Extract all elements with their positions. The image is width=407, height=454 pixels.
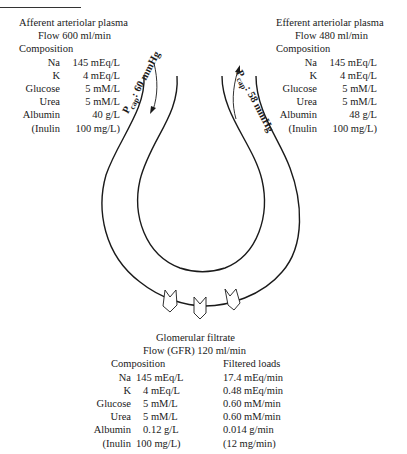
efferent-composition-label: Composition	[276, 42, 384, 55]
capillary-inner-wall	[138, 76, 265, 272]
afferent-row-inulin: (Inulin100 mg/L)	[19, 122, 128, 135]
afferent-flow: Flow 600 ml/min	[19, 29, 128, 42]
afferent-row-albumin: Albumin40 g/L	[19, 108, 128, 121]
efferent-row-urea: Urea5 mM/L	[276, 95, 384, 108]
efferent-row-albumin: Albumin48 g/L	[276, 108, 384, 121]
filtrate-row-albumin: Albumin0.12 g/L0.014 g/min	[88, 423, 328, 436]
filtrate-flow: Flow (GFR) 120 ml/min	[88, 344, 328, 357]
filtrate-header-row: Composition Filtered loads	[88, 357, 328, 370]
filtrate-row-glucose: Glucose5 mM/L0.60 mM/min	[88, 397, 328, 410]
filtered-loads-header: Filtered loads	[223, 357, 280, 370]
afferent-composition-label: Composition	[19, 42, 128, 55]
filtration-arrow-icon	[225, 289, 240, 310]
glomerular-filtrate-block: Glomerular filtrate Flow (GFR) 120 ml/mi…	[88, 331, 328, 450]
efferent-row-k: K4 mEq/L	[276, 69, 384, 82]
filtrate-title: Glomerular filtrate	[88, 331, 328, 344]
inflow-arrowhead-icon	[150, 106, 156, 114]
efferent-row-na: Na145 mEq/L	[276, 56, 384, 69]
afferent-row-na: Na145 mEq/L	[19, 56, 128, 69]
efferent-title: Efferent arteriolar plasma	[276, 16, 384, 29]
efferent-row-inulin: (Inulin100 mg/L)	[276, 122, 384, 135]
efferent-row-glucose: Glucose5 mM/L	[276, 82, 384, 95]
filtration-arrow-icon	[163, 290, 177, 312]
efferent-plasma-block: Efferent arteriolar plasma Flow 480 ml/m…	[276, 16, 384, 135]
afferent-title: Afferent arteriolar plasma	[19, 16, 128, 29]
afferent-row-k: K4 mEq/L	[19, 69, 128, 82]
filtrate-row-urea: Urea5 mM/L0.60 mM/min	[88, 410, 328, 423]
afferent-row-glucose: Glucose5 mM/L	[19, 82, 128, 95]
afferent-row-urea: Urea5 mM/L	[19, 95, 128, 108]
composition-header: Composition	[88, 357, 223, 370]
filtrate-row-k: K4 mEq/L0.48 mEq/min	[88, 384, 328, 397]
efferent-flow: Flow 480 ml/min	[276, 29, 384, 42]
filtrate-row-na: Na145 mEq/L17.4 mEq/min	[88, 371, 328, 384]
filtration-arrow-icon	[194, 297, 206, 319]
filtrate-row-inulin: (Inulin100 mg/L)(12 mg/min)	[88, 437, 328, 450]
afferent-plasma-block: Afferent arteriolar plasma Flow 600 ml/m…	[19, 16, 128, 135]
